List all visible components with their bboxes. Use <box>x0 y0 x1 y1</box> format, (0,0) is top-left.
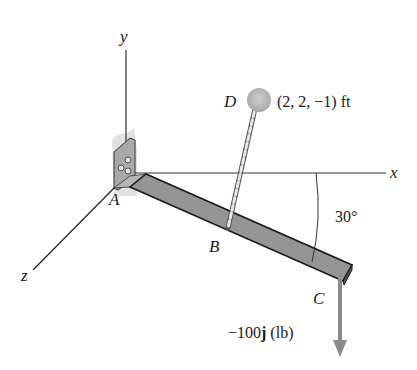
point-c-label: C <box>313 289 325 308</box>
z-axis-label: z <box>20 266 28 285</box>
z-axis <box>33 182 120 270</box>
d-coordinates-label: (2, 2, −1) ft <box>277 93 351 111</box>
angle-label: 30° <box>335 208 357 225</box>
cable-bd <box>228 104 256 228</box>
force-arrow <box>333 278 347 357</box>
force-label: −100j (lb) <box>228 324 293 342</box>
anchor-d <box>247 88 271 112</box>
point-b-label: B <box>209 237 220 256</box>
point-a-label: A <box>108 190 120 209</box>
x-axis-label: x <box>389 163 398 182</box>
y-axis-label: y <box>118 27 128 46</box>
statics-diagram: y x z A B C D (2, 2, −1) ft 30° −100j (l… <box>0 0 417 370</box>
point-d-label: D <box>223 92 237 111</box>
beam-abc <box>130 174 352 285</box>
